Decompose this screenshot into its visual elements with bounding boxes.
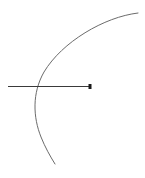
geometry-figure — [0, 0, 145, 178]
endpoint-dot — [89, 84, 92, 89]
circular-arc — [35, 13, 138, 164]
figure-svg — [0, 0, 145, 178]
